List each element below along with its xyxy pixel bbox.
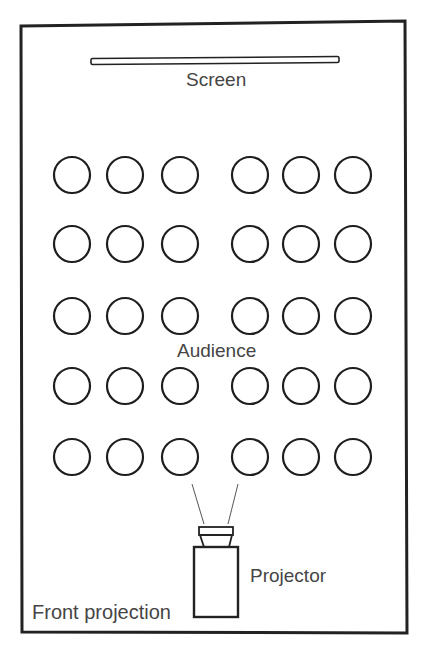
audience-seat xyxy=(283,226,319,262)
audience-seat xyxy=(335,157,371,193)
diagram-title: Front projection xyxy=(32,602,171,622)
audience-seat xyxy=(54,439,90,475)
projector-lens-barrel xyxy=(200,535,232,547)
audience-seat xyxy=(232,439,268,475)
audience-seat xyxy=(162,226,198,262)
projection-screen xyxy=(91,57,339,65)
audience-seat xyxy=(232,298,268,334)
audience-label: Audience xyxy=(177,341,256,360)
audience-seat xyxy=(107,157,143,193)
audience-seat xyxy=(162,368,198,404)
audience-seat xyxy=(107,226,143,262)
audience-seat xyxy=(335,226,371,262)
audience-seat xyxy=(283,439,319,475)
audience-seating xyxy=(54,157,371,475)
screen-label: Screen xyxy=(186,70,246,89)
audience-seat xyxy=(335,439,371,475)
audience-seat xyxy=(162,298,198,334)
audience-seat xyxy=(107,439,143,475)
audience-seat xyxy=(335,368,371,404)
audience-seat xyxy=(54,157,90,193)
audience-seat xyxy=(162,439,198,475)
audience-seat xyxy=(107,298,143,334)
projector-beam-left xyxy=(192,484,204,524)
projector-label: Projector xyxy=(250,566,326,585)
audience-seat xyxy=(107,368,143,404)
projector-beam-right xyxy=(228,484,238,524)
projector-lens-rim xyxy=(199,527,233,535)
projector-body xyxy=(194,547,238,617)
front-projection-diagram xyxy=(0,0,431,668)
audience-seat xyxy=(54,298,90,334)
audience-seat xyxy=(54,368,90,404)
audience-seat xyxy=(54,226,90,262)
audience-seat xyxy=(162,157,198,193)
audience-seat xyxy=(335,298,371,334)
audience-seat xyxy=(232,368,268,404)
audience-seat xyxy=(232,226,268,262)
audience-seat xyxy=(283,298,319,334)
audience-seat xyxy=(283,157,319,193)
audience-seat xyxy=(283,368,319,404)
audience-seat xyxy=(232,157,268,193)
